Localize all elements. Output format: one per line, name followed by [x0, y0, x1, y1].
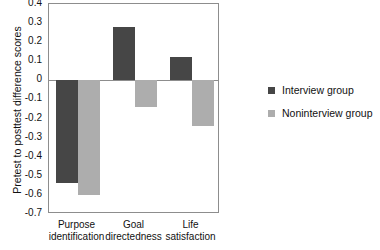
y-axis-tick-neg0-6: -0.6	[0, 189, 42, 199]
bar-noninterview-1	[135, 80, 157, 107]
legend: Interview groupNoninterview group	[268, 84, 372, 130]
x-axis-label-2: Lifesatisfaction	[156, 219, 226, 242]
x-axis-label-line: Life	[156, 219, 226, 231]
y-axis-tick-0neg1: 0.1	[0, 55, 42, 65]
x-axis-label-line: satisfaction	[156, 231, 226, 243]
y-axis-tick-neg0-2: -0.2	[0, 113, 42, 123]
y-axis-tick-neg0-4: -0.4	[0, 151, 42, 161]
bar-interview-2	[170, 57, 192, 80]
legend-label: Noninterview group	[282, 107, 372, 119]
y-axis-tick-0neg2: 0.2	[0, 36, 42, 46]
bar-chart: Pretest to posttest difference scores 0.…	[0, 0, 380, 250]
y-axis-tick-neg0-7: -0.7	[0, 208, 42, 218]
y-axis-tick-0: 0	[0, 74, 42, 84]
legend-label: Interview group	[282, 84, 354, 96]
legend-swatch-icon	[268, 87, 275, 94]
legend-item-interview[interactable]: Interview group	[268, 84, 372, 96]
y-axis-tick-0neg3: 0.3	[0, 17, 42, 27]
y-axis-tick-neg0-5: -0.5	[0, 170, 42, 180]
legend-swatch-icon	[268, 110, 275, 117]
legend-item-noninterview[interactable]: Noninterview group	[268, 107, 372, 119]
bar-interview-1	[113, 27, 135, 80]
plot-area	[48, 3, 219, 213]
y-axis-tick-neg0-1: -0.1	[0, 93, 42, 103]
bar-noninterview-0	[78, 80, 100, 195]
bar-noninterview-2	[192, 80, 214, 126]
bar-interview-0	[56, 80, 78, 183]
y-axis-tick-neg0-3: -0.3	[0, 132, 42, 142]
y-axis-tick-0neg4: 0.4	[0, 0, 42, 8]
